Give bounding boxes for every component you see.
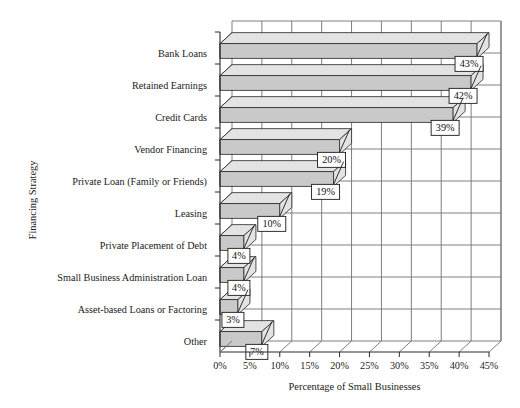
x-tick-label: 0% — [213, 360, 227, 371]
data-label: 10% — [262, 218, 281, 229]
category-label: Other — [184, 336, 208, 347]
x-tick-label: 5% — [243, 360, 257, 371]
data-label: 39% — [436, 122, 455, 133]
x-tick-labels-group: 0%5%10%15%20%25%30%35%40%45% — [213, 360, 499, 371]
category-label: Vendor Financing — [134, 144, 207, 155]
x-tick-label: 10% — [270, 360, 289, 371]
category-label: Small Business Administration Loan — [57, 272, 207, 283]
data-label: 43% — [460, 58, 479, 69]
category-label: Leasing — [175, 208, 207, 219]
category-label: Private Loan (Family or Friends) — [72, 176, 207, 188]
x-tick-label: 15% — [300, 360, 319, 371]
category-labels-group: Bank LoansRetained EarningsCredit CardsV… — [57, 48, 207, 347]
chart-container: 43%42%39%20%19%10%4%4%3%7% Bank LoansRet… — [0, 0, 520, 408]
bar-chart: 43%42%39%20%19%10%4%4%3%7% Bank LoansRet… — [0, 0, 520, 408]
x-tick-label: 35% — [420, 360, 439, 371]
category-label: Asset-based Loans or Factoring — [78, 304, 207, 315]
bar-front-face — [220, 108, 453, 123]
x-tick-label: 25% — [360, 360, 379, 371]
data-label: 20% — [322, 154, 341, 165]
bar-top-face — [220, 97, 465, 108]
category-label: Private Placement of Debt — [100, 240, 207, 251]
x-tick-label: 45% — [480, 360, 499, 371]
category-label: Credit Cards — [155, 112, 207, 123]
data-label: 4% — [232, 250, 246, 261]
data-label: 42% — [454, 90, 473, 101]
data-label: 4% — [232, 282, 246, 293]
data-label: 19% — [316, 186, 335, 197]
bar-front-face — [220, 44, 477, 59]
bar-top-face — [220, 33, 489, 44]
category-label: Bank Loans — [158, 48, 207, 59]
category-label: Retained Earnings — [132, 80, 207, 91]
x-tick-label: 40% — [450, 360, 469, 371]
x-axis-title: Percentage of Small Businesses — [289, 381, 421, 392]
x-tick-label: 20% — [330, 360, 349, 371]
data-label: 3% — [226, 314, 240, 325]
bar-top-face — [220, 65, 483, 76]
gridline — [489, 21, 501, 352]
y-axis-title: Financing Strategy — [27, 160, 38, 240]
bar-front-face — [220, 76, 471, 91]
x-tick-label: 30% — [390, 360, 409, 371]
bar-top-face — [220, 129, 352, 140]
bars-group — [220, 33, 489, 347]
